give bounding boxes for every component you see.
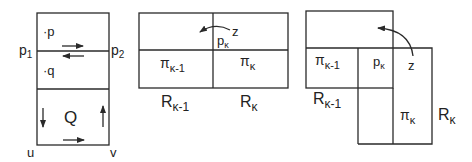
pi-k-1-label: πκ-1 bbox=[160, 55, 185, 74]
R-k-label: Rκ bbox=[240, 93, 259, 114]
point-p-label: ·p bbox=[43, 24, 55, 39]
figure-2: z pκ πκ-1 πκ Rκ-1 Rκ bbox=[139, 13, 288, 114]
curved-arrow-icon bbox=[378, 28, 413, 56]
diagram-canvas: ·p ·q p1 p2 Q u v z pκ πκ-1 πκ Rκ-1 Rκ z… bbox=[0, 0, 472, 162]
p-kappa-label: pκ bbox=[217, 33, 229, 50]
p1-label: p1 bbox=[19, 42, 33, 60]
corner-v-label: v bbox=[110, 145, 117, 160]
curved-arrow-icon bbox=[200, 26, 230, 32]
z-label: z bbox=[408, 58, 415, 73]
p-kappa-label: pκ bbox=[373, 54, 385, 71]
figure-3: z pκ πκ-1 πκ Rκ-1 Rκ bbox=[306, 11, 457, 144]
corner-u-label: u bbox=[27, 145, 34, 160]
z-label: z bbox=[232, 24, 239, 39]
point-q-label: ·q bbox=[43, 63, 55, 78]
region-Q-label: Q bbox=[64, 108, 77, 127]
figure-1: ·p ·q p1 p2 Q u v bbox=[19, 13, 125, 160]
p2-label: p2 bbox=[111, 42, 125, 60]
pi-k-label: πκ bbox=[400, 107, 416, 126]
pi-k-1-label: πκ-1 bbox=[315, 52, 340, 71]
R-k-1-label: Rκ-1 bbox=[161, 93, 190, 114]
R-k-label: Rκ bbox=[438, 106, 457, 127]
figure3-R-k-1-rect bbox=[306, 11, 393, 88]
figure3-R-k-rect bbox=[358, 48, 432, 144]
pi-k-label: πκ bbox=[240, 53, 256, 72]
R-k-1-label: Rκ-1 bbox=[313, 90, 342, 111]
